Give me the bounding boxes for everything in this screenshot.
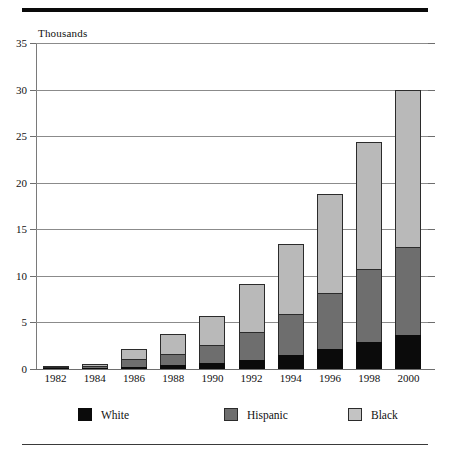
bar-segment-white-1994 — [278, 355, 304, 369]
bar-segment-black-1998 — [356, 142, 382, 270]
bar-segment-white-1996 — [317, 349, 343, 369]
y-axis-tick-label: 30 — [16, 84, 27, 96]
bar-segment-black-2000 — [395, 90, 421, 247]
x-axis-tick-label: 1998 — [358, 372, 380, 384]
bar-segment-hispanic-1992 — [239, 332, 265, 360]
x-axis-labels: 1982198419861988199019921994199619982000 — [36, 372, 428, 392]
bottom-rule — [22, 444, 428, 445]
bar-segment-white-1984 — [82, 368, 108, 369]
bar-segment-hispanic-1990 — [199, 345, 225, 364]
bar-group-1988 — [160, 334, 186, 369]
y-axis-tick-label: 0 — [22, 363, 28, 375]
x-axis-tick-label: 2000 — [397, 372, 419, 384]
legend-item-hispanic: Hispanic — [224, 408, 288, 421]
bar-segment-white-1992 — [239, 360, 265, 369]
gridline-0 — [36, 369, 428, 370]
figure: Thousands 05101520253035 198219841986198… — [0, 0, 450, 460]
y-axis-caption: Thousands — [38, 27, 87, 39]
bar-segment-black-1988 — [160, 334, 186, 354]
x-axis-tick-label: 1988 — [162, 372, 184, 384]
bar-group-1994 — [278, 244, 304, 369]
bar-segment-hispanic-1998 — [356, 269, 382, 342]
legend-item-black: Black — [348, 408, 398, 421]
y-axis-tick-label: 15 — [16, 223, 27, 235]
bar-group-1984 — [82, 364, 108, 369]
bar-group-1996 — [317, 194, 343, 369]
bar-group-1982 — [43, 366, 69, 369]
legend-label: White — [101, 409, 129, 421]
bar-group-1998 — [356, 142, 382, 369]
y-axis-tick-label: 5 — [22, 316, 28, 328]
x-axis-tick-label: 1982 — [45, 372, 67, 384]
y-tick-mark-right-0 — [428, 369, 435, 370]
bar-group-1990 — [199, 316, 225, 369]
x-axis-tick-label: 1984 — [84, 372, 106, 384]
y-axis-tick-label: 35 — [16, 37, 27, 49]
light-gray-swatch-icon — [348, 408, 362, 421]
dark-gray-swatch-icon — [224, 408, 238, 421]
bar-segment-hispanic-1996 — [317, 293, 343, 349]
bar-segment-black-1996 — [317, 194, 343, 293]
bar-segment-hispanic-1994 — [278, 314, 304, 355]
bar-series-container — [36, 43, 428, 369]
y-tick-mark-right-35 — [428, 43, 435, 44]
bar-segment-white-1990 — [199, 363, 225, 369]
bar-segment-hispanic-1988 — [160, 354, 186, 366]
y-axis-tick-label: 20 — [16, 177, 27, 189]
y-axis-tick-label: 25 — [16, 130, 27, 142]
x-axis-tick-label: 1992 — [241, 372, 263, 384]
y-tick-mark-right-10 — [428, 276, 435, 277]
legend-label: Hispanic — [247, 409, 288, 421]
bar-segment-black-1986 — [121, 349, 147, 359]
y-tick-mark-right-30 — [428, 90, 435, 91]
y-axis-tick-label: 10 — [16, 270, 27, 282]
bar-group-1992 — [239, 284, 265, 369]
bar-group-1986 — [121, 349, 147, 369]
bar-group-2000 — [395, 90, 421, 369]
x-axis-tick-label: 1990 — [201, 372, 223, 384]
bar-segment-hispanic-1986 — [121, 359, 147, 367]
bar-segment-black-1994 — [278, 244, 304, 314]
bar-segment-white-1988 — [160, 365, 186, 369]
bar-segment-black-1992 — [239, 284, 265, 332]
bar-segment-black-1990 — [199, 316, 225, 345]
y-tick-mark-right-20 — [428, 183, 435, 184]
chart-legend: WhiteHispanicBlack — [36, 408, 428, 430]
bar-segment-white-1986 — [121, 367, 147, 369]
bar-segment-white-2000 — [395, 335, 421, 369]
bar-segment-white-1982 — [43, 368, 69, 369]
x-axis-tick-label: 1996 — [319, 372, 341, 384]
y-tick-mark-right-15 — [428, 229, 435, 230]
y-tick-mark-right-25 — [428, 136, 435, 137]
x-axis-tick-label: 1994 — [280, 372, 302, 384]
plot-area: 05101520253035 — [36, 43, 428, 369]
bar-segment-hispanic-2000 — [395, 247, 421, 335]
y-tick-mark-right-5 — [428, 322, 435, 323]
bar-segment-white-1998 — [356, 342, 382, 369]
x-axis-tick-label: 1986 — [123, 372, 145, 384]
top-rule — [22, 8, 428, 12]
black-swatch-icon — [78, 408, 92, 421]
legend-item-white: White — [78, 408, 129, 421]
y-tick-mark-0 — [30, 369, 36, 370]
legend-label: Black — [371, 409, 398, 421]
